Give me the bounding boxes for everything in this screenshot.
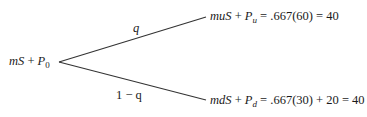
- down-subscript: d: [252, 99, 257, 109]
- down-plus: +: [232, 93, 245, 107]
- root-subscript: 0: [45, 60, 50, 70]
- up-probability-label: q: [133, 21, 139, 36]
- down-prob-text: 1 − q: [116, 88, 142, 102]
- root-var-ms: mS: [9, 54, 24, 68]
- up-plus: +: [232, 9, 245, 23]
- down-expression: = .667(30) + 20 = 40: [257, 93, 365, 107]
- up-expression: = .667(60) = 40: [257, 9, 339, 23]
- down-var-mds: mdS: [210, 93, 232, 107]
- up-var-mus: muS: [210, 9, 232, 23]
- down-probability-label: 1 − q: [116, 88, 142, 103]
- up-subscript: u: [252, 15, 257, 25]
- root-plus: +: [24, 54, 37, 68]
- down-node: mdS + Pd = .667(30) + 20 = 40: [210, 93, 365, 108]
- up-node: muS + Pu = .667(60) = 40: [210, 9, 339, 24]
- root-node: mS + P0: [9, 54, 50, 69]
